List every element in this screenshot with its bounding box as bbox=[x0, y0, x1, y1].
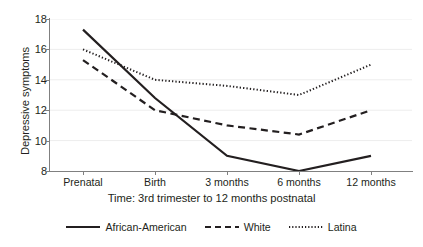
x-tick-mark-6-months bbox=[299, 171, 300, 175]
x-tick-label-12-months: 12 months bbox=[326, 176, 416, 188]
legend-label-white: White bbox=[244, 221, 271, 233]
x-axis-ticks: Prenatal Birth 3 months 6 months 12 mont… bbox=[0, 0, 423, 247]
legend-swatch-dotted-icon bbox=[289, 222, 323, 232]
legend-swatch-solid-icon bbox=[66, 222, 100, 232]
chart-legend: African-American White Latina bbox=[0, 221, 423, 233]
legend-item-white: White bbox=[205, 221, 271, 233]
x-tick-mark-3-months bbox=[227, 171, 228, 175]
x-tick-mark-prenatal bbox=[83, 171, 84, 175]
x-axis-title: Time: 3rd trimester to 12 months postnat… bbox=[0, 192, 423, 204]
legend-item-african-american: African-American bbox=[66, 221, 186, 233]
legend-item-latina: Latina bbox=[289, 221, 357, 233]
legend-label-latina: Latina bbox=[328, 221, 357, 233]
legend-swatch-dashed-icon bbox=[205, 222, 239, 232]
x-tick-mark-12-months bbox=[371, 171, 372, 175]
line-chart-figure: Depressive symptoms 18 16 14 12 10 8 Pre… bbox=[0, 0, 423, 247]
x-tick-mark-birth bbox=[155, 171, 156, 175]
legend-label-african-american: African-American bbox=[105, 221, 186, 233]
